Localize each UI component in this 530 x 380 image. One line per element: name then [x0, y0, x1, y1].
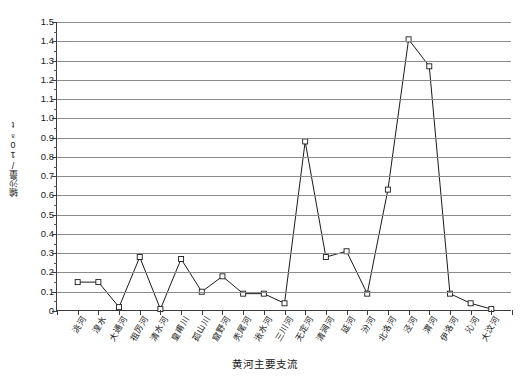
- data-point-marker: [220, 274, 225, 279]
- gridline: [57, 157, 511, 158]
- y-axis-minor-tick: [54, 128, 57, 129]
- gridline: [57, 234, 511, 235]
- y-axis-minor-tick: [54, 89, 57, 90]
- y-axis-tick: [52, 176, 57, 177]
- y-axis-minor-tick: [54, 167, 57, 168]
- y-axis-title: 输沙量/10⁸t: [8, 120, 26, 197]
- y-axis-tick: [52, 253, 57, 254]
- x-axis-tick: [512, 310, 513, 315]
- data-series-line: [57, 22, 512, 311]
- data-point-marker: [303, 139, 308, 144]
- plot-area: [56, 22, 511, 311]
- gridline: [57, 118, 511, 119]
- y-axis-minor-tick: [54, 244, 57, 245]
- data-point-marker: [137, 255, 142, 260]
- chart-container: 输沙量/10⁸t 00.10.20.30.40.50.60.70.80.91.0…: [0, 0, 530, 380]
- y-axis-tick: [52, 215, 57, 216]
- y-axis-tick: [52, 157, 57, 158]
- gridline: [57, 80, 511, 81]
- y-axis-tick: [52, 272, 57, 273]
- y-axis-tick: [52, 292, 57, 293]
- y-axis-tick: [52, 118, 57, 119]
- data-point-marker: [75, 280, 80, 285]
- y-axis-minor-tick: [54, 301, 57, 302]
- y-axis-tick: [52, 195, 57, 196]
- gridline: [57, 292, 511, 293]
- gridline: [57, 215, 511, 216]
- gridline: [57, 176, 511, 177]
- y-axis-minor-tick: [54, 224, 57, 225]
- y-axis-minor-tick: [54, 282, 57, 283]
- y-axis-tick: [52, 234, 57, 235]
- data-point-marker: [427, 64, 432, 69]
- y-axis-minor-tick: [54, 109, 57, 110]
- y-axis-tick: [52, 80, 57, 81]
- gridline: [57, 195, 511, 196]
- y-axis-minor-tick: [54, 32, 57, 33]
- y-axis-minor-tick: [54, 263, 57, 264]
- gridline: [57, 272, 511, 273]
- x-axis-title: 黄河主要支流: [0, 356, 530, 371]
- data-point-marker: [179, 256, 184, 261]
- gridline: [57, 61, 511, 62]
- y-axis-tick: [52, 61, 57, 62]
- data-point-marker: [323, 255, 328, 260]
- y-axis-tick: [52, 22, 57, 23]
- gridline: [57, 99, 511, 100]
- data-point-marker: [96, 280, 101, 285]
- gridline: [57, 138, 511, 139]
- gridline: [57, 41, 511, 42]
- y-axis-minor-tick: [54, 147, 57, 148]
- gridline: [57, 253, 511, 254]
- y-axis-minor-tick: [54, 205, 57, 206]
- y-axis-minor-tick: [54, 70, 57, 71]
- data-point-marker: [385, 187, 390, 192]
- y-axis-tick: [52, 99, 57, 100]
- y-axis-tick: [52, 41, 57, 42]
- y-axis-tick: [52, 138, 57, 139]
- gridline: [57, 22, 511, 23]
- y-axis-minor-tick: [54, 51, 57, 52]
- y-axis-tick-labels: 00.10.20.30.40.50.60.70.80.91.01.11.21.3…: [28, 0, 54, 380]
- y-axis-minor-tick: [54, 186, 57, 187]
